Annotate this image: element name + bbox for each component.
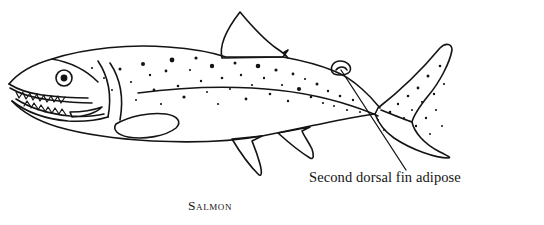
head-crease xyxy=(52,59,98,82)
caudal-fin-crease xyxy=(381,110,412,122)
eye-icon xyxy=(56,70,72,86)
dorsal-fin xyxy=(221,12,288,58)
leader-line xyxy=(341,70,406,170)
adipose-fin-detail xyxy=(336,67,347,70)
salmon-figure: Second dorsal fin adipose Salmon xyxy=(0,0,544,225)
pelvic-fin xyxy=(232,136,262,175)
lower-jaw-teeth xyxy=(24,101,66,115)
annotation-label-adipose-fin: Second dorsal fin adipose xyxy=(309,170,461,185)
anal-fin xyxy=(278,127,313,158)
adipose-fin xyxy=(331,61,350,75)
salmon-illustration xyxy=(0,0,544,225)
figure-caption: Salmon xyxy=(120,199,300,213)
gill-cover-inner xyxy=(110,63,122,120)
lateral-line xyxy=(138,87,378,116)
pectoral-fin xyxy=(115,113,179,138)
